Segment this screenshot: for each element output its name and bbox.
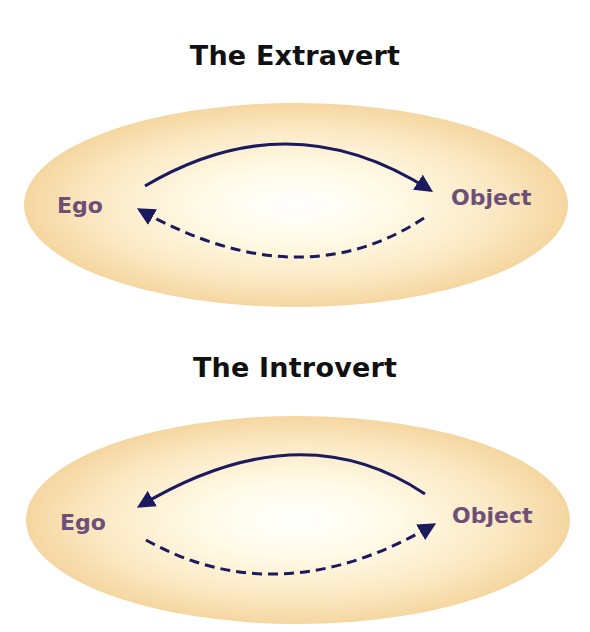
extravert-diagram: Ego Object: [24, 103, 568, 307]
extravert-object-label: Object: [451, 185, 532, 210]
introvert-ego-label: Ego: [60, 510, 106, 535]
diagram-canvas: Ego Object Ego Object: [0, 0, 590, 632]
introvert-diagram: Ego Object: [26, 416, 570, 624]
introvert-object-label: Object: [452, 503, 533, 528]
extravert-ego-label: Ego: [57, 193, 103, 218]
